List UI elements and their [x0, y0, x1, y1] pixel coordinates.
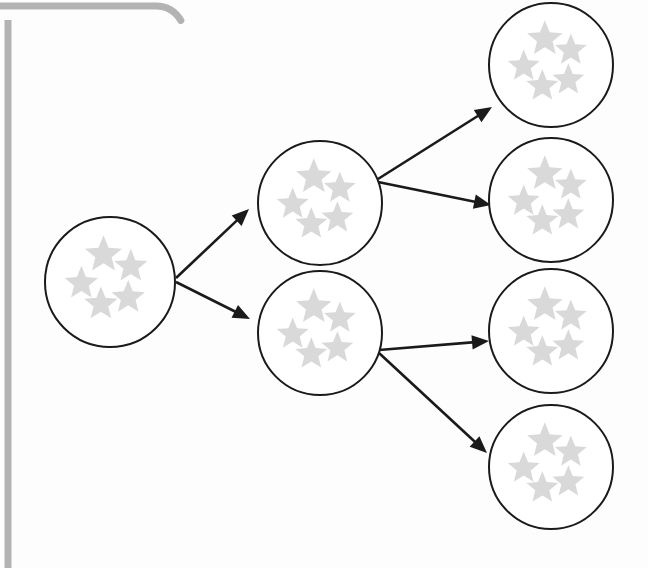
edge-line — [378, 114, 480, 179]
cluster-circle[interactable] — [489, 3, 613, 127]
cluster-node-root-cluster[interactable] — [45, 217, 175, 347]
edge-middle-top-to-leaf-1 — [378, 107, 492, 179]
edge-middle-bottom-to-leaf-4 — [379, 353, 487, 453]
cluster-node-leaf-cluster-3[interactable] — [489, 269, 613, 393]
cluster-node-leaf-cluster-2[interactable] — [489, 138, 613, 262]
cluster-circle[interactable] — [45, 217, 175, 347]
cluster-nodes-group — [45, 3, 613, 529]
cluster-node-middle-cluster-top[interactable] — [258, 141, 382, 265]
cluster-circle[interactable] — [489, 138, 613, 262]
arrowhead-icon — [474, 107, 492, 122]
edge-line — [176, 219, 239, 278]
edge-line — [378, 182, 477, 202]
edge-line — [176, 282, 237, 313]
edge-line — [379, 353, 477, 443]
edge-middle-bottom-to-leaf-3 — [379, 335, 489, 350]
edge-root-to-middle-bottom — [176, 282, 250, 319]
edge-middle-top-to-leaf-2 — [378, 182, 491, 209]
cluster-circle[interactable] — [489, 269, 613, 393]
cluster-circle[interactable] — [489, 405, 613, 529]
cluster-node-leaf-cluster-4[interactable] — [489, 405, 613, 529]
arrowhead-icon — [471, 335, 489, 349]
edge-line — [379, 342, 475, 350]
panel-top-edge — [0, 6, 181, 20]
branching-diagram — [0, 0, 648, 568]
cluster-node-leaf-cluster-1[interactable] — [489, 3, 613, 127]
diagram-canvas — [0, 0, 648, 568]
cluster-node-middle-cluster-bottom[interactable] — [258, 271, 382, 395]
edge-root-to-middle-top — [176, 209, 249, 278]
cluster-circle[interactable] — [258, 271, 382, 395]
cluster-circle[interactable] — [258, 141, 382, 265]
